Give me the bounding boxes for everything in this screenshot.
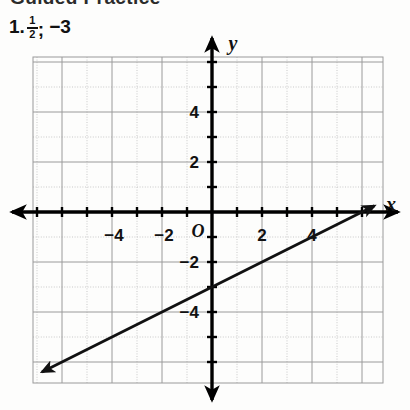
origin-label: O: [192, 221, 205, 241]
grid-outline: [33, 57, 383, 383]
grid-major-lines: [33, 57, 383, 383]
x-tick-label--2: −2: [154, 226, 173, 245]
graph-labels: yxO−4−22442−2−4: [104, 32, 396, 322]
coordinate-graph: yxO−4−22442−2−4: [0, 0, 410, 410]
y-tick-label--2: −2: [180, 253, 199, 272]
grid-minor-lines: [33, 57, 383, 383]
grid-border: [33, 57, 383, 383]
line-graph-segment: [42, 206, 375, 372]
x-axis-label: x: [385, 193, 396, 215]
y-tick-label--4: −4: [180, 303, 200, 322]
y-tick-label-4: 4: [190, 103, 200, 122]
graph-canvas: yxO−4−22442−2−4: [0, 0, 410, 410]
plotted-line: [42, 206, 375, 372]
x-tick-label--4: −4: [104, 226, 124, 245]
x-tick-label-4: 4: [307, 226, 317, 245]
axes: [12, 38, 398, 400]
y-axis-label: y: [227, 32, 238, 55]
x-tick-label-2: 2: [257, 226, 266, 245]
y-tick-label-2: 2: [190, 153, 199, 172]
